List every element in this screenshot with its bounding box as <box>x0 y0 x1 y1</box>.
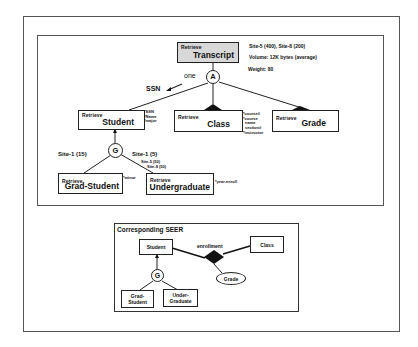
attribute: *major <box>144 119 156 124</box>
entity-name: Class <box>260 242 273 248</box>
generalization-symbol: G <box>155 272 160 279</box>
entity-name: Student <box>147 244 166 250</box>
undergraduate-entity: Retrieve Undergraduate <box>146 173 214 195</box>
site-label-under: Site-1 (5) <box>132 151 157 157</box>
entity-name: Class <box>207 119 230 129</box>
edge-label-ssn: SSN <box>146 85 160 92</box>
student-attributes: *SSN *Name *major <box>144 110 156 124</box>
transcript-entity: Retrieve Transcript <box>177 42 239 63</box>
undergraduate-attributes: *year-enroll <box>215 180 237 185</box>
aggregation-node: A <box>206 70 220 84</box>
generalization-symbol: G <box>113 146 119 155</box>
transcript-info-sites: Site-5 (400), Site-8 (200) <box>249 44 305 49</box>
seer-title: Corresponding SEER <box>117 226 183 233</box>
seer-grad-student-entity: Grad- Student <box>121 290 154 308</box>
site-label-grad: Site-1 (15) <box>58 151 87 157</box>
retrieve-label: Retrieve <box>276 115 297 121</box>
site-label: Site-8 (50) <box>141 165 166 170</box>
entity-name: Transcript <box>193 50 234 60</box>
student-entity: Retrieve Student <box>78 110 145 130</box>
seer-relationship-label: enrollment <box>197 243 223 249</box>
grade-entity: Retrieve Grade <box>272 110 339 132</box>
retrieve-label: Retrieve <box>82 112 103 118</box>
attribute: *minor <box>123 176 136 181</box>
class-entity: Retrieve Class <box>174 110 243 132</box>
entity-name: Grade <box>301 118 326 128</box>
entity-name: Undergraduate <box>150 182 210 192</box>
edge-label-one: one <box>184 72 196 79</box>
aggregation-symbol: A <box>210 72 215 81</box>
retrieve-label: Retrieve <box>178 114 199 120</box>
seer-grade-attribute: Grade <box>216 272 246 285</box>
site-label-under-extra: Site-5 (50) Site-8 (50) <box>141 160 166 169</box>
attribute: *instructor <box>243 131 263 136</box>
entity-name-line: Student <box>128 299 147 305</box>
grad-student-attributes: *minor <box>123 176 136 181</box>
attribute-name: Grade <box>224 276 238 282</box>
entity-name: Student <box>102 117 134 127</box>
grad-student-entity: Retrieve Grad-Student <box>58 173 123 194</box>
transcript-info-volume: Volume: 12K bytes (average) <box>249 55 317 60</box>
transcript-info-weight: Weight: 80 <box>248 67 273 72</box>
generalization-node: G <box>108 143 123 158</box>
seer-student-entity: Student <box>139 239 173 255</box>
seer-generalization-node: G <box>151 269 164 282</box>
seer-undergraduate-entity: Under- Graduate <box>163 289 198 307</box>
class-attributes: *course# *course name section# *instruct… <box>243 112 263 136</box>
entity-name-line: Graduate <box>170 298 192 304</box>
entity-name: Grad-Student <box>65 181 119 191</box>
seer-class-entity: Class <box>250 236 284 253</box>
attribute: *year-enroll <box>215 180 237 185</box>
